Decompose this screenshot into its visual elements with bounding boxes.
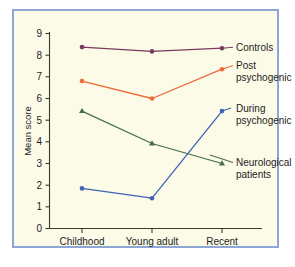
y-axis-title: Mean score xyxy=(22,106,33,156)
series-label-during-line1: During xyxy=(236,103,265,114)
data-point-post-childhood xyxy=(80,79,85,84)
data-point-neuro-childhood xyxy=(79,108,85,113)
series-label-during-line2: psychogenic xyxy=(236,115,292,126)
x-tick-label-young-adult: Young adult xyxy=(126,236,179,247)
data-point-controls-childhood xyxy=(80,45,85,50)
series-label-post-line2: psychogenic xyxy=(236,72,292,83)
y-tick-labels: 0 1 2 3 4 5 6 7 8 9 xyxy=(36,28,42,234)
series-label-controls: Controls xyxy=(236,42,273,53)
x-tick-label-recent: Recent xyxy=(206,236,238,247)
series-label-post-line1: Post xyxy=(236,60,256,71)
y-tick-label: 2 xyxy=(36,180,42,191)
y-tick-label: 4 xyxy=(36,136,42,147)
series-label-neuro-line1: Neurological xyxy=(236,157,292,168)
y-tick-label: 9 xyxy=(36,28,42,39)
data-point-during-childhood xyxy=(80,186,85,191)
series-post-psychogenic: Post psychogenic xyxy=(80,60,292,101)
line-chart: 0 1 2 3 4 5 6 7 8 9 Childhood Young adul… xyxy=(0,0,295,267)
y-tick-label: 1 xyxy=(36,201,42,212)
data-point-during-young-adult xyxy=(150,196,155,201)
y-tick-label: 7 xyxy=(36,71,42,82)
axis-group: 0 1 2 3 4 5 6 7 8 9 Childhood Young adul… xyxy=(22,28,262,247)
series-post-psychogenic-line xyxy=(82,69,222,98)
y-tick-label: 0 xyxy=(36,223,42,234)
y-tick-label: 5 xyxy=(36,115,42,126)
x-tick-marks xyxy=(82,229,222,234)
series-controls: Controls xyxy=(80,42,274,54)
series-during-psychogenic-line xyxy=(82,111,222,198)
x-tick-label-childhood: Childhood xyxy=(59,236,104,247)
y-tick-label: 3 xyxy=(36,158,42,169)
series-label-neuro-line2: patients xyxy=(236,169,271,180)
y-tick-label: 8 xyxy=(36,50,42,61)
figure-root: 0 1 2 3 4 5 6 7 8 9 Childhood Young adul… xyxy=(0,0,295,267)
y-tick-marks xyxy=(46,34,50,229)
x-tick-labels: Childhood Young adult Recent xyxy=(59,236,238,247)
series-during-psychogenic: During psychogenic xyxy=(80,103,292,201)
data-point-post-young-adult xyxy=(150,96,155,101)
y-tick-label: 6 xyxy=(36,93,42,104)
series-post-psychogenic-leader xyxy=(222,66,233,70)
data-point-controls-young-adult xyxy=(150,49,155,54)
